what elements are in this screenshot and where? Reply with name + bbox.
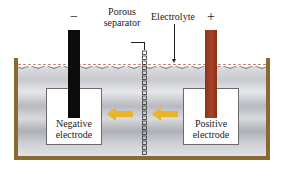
negative-electrode-label-line2: electrode	[56, 129, 93, 140]
positive-electrode-rod	[205, 30, 217, 118]
ion-flow-arrow-left-2	[152, 107, 178, 121]
negative-electrode-rod	[68, 30, 80, 118]
negative-electrode-label-line1: Negative	[56, 118, 92, 129]
ion-flow-arrow-left-1	[107, 107, 133, 121]
porous-label-line2: separator	[92, 17, 152, 28]
porous-separator-label: Porous separator	[92, 6, 152, 28]
porous-label-line1: Porous	[92, 6, 152, 17]
electrolyte-label: Electrolyte	[151, 11, 195, 22]
porous-leader-line-vertical	[144, 42, 145, 50]
electrolyte-leader-line	[174, 24, 175, 60]
positive-electrode-label-line1: Positive	[195, 118, 227, 129]
positive-electrode-label-line2: electrode	[193, 129, 230, 140]
electrochemical-cell-diagram: Negative electrode Positive electrode − …	[0, 0, 284, 180]
positive-sign: +	[205, 10, 217, 24]
tank-right-wall	[266, 58, 270, 160]
porous-separator	[142, 50, 147, 160]
negative-sign: −	[68, 10, 80, 24]
porous-leader-line	[131, 42, 144, 43]
electrolyte-leader-arrowhead	[172, 59, 176, 63]
